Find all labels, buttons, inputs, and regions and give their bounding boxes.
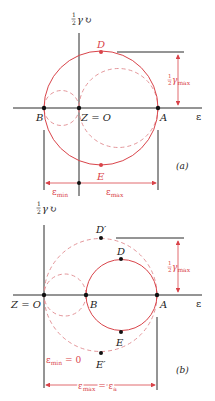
eps-max-label-a: εmax — [106, 187, 124, 198]
label-b-b: B — [89, 299, 97, 310]
label-e-prime-b: E′ — [95, 359, 106, 370]
label-d-prime-b: D′ — [95, 224, 107, 235]
point-o-a — [77, 106, 81, 110]
label-o-b: Z = O — [10, 299, 41, 310]
label-e-a: E — [96, 171, 105, 182]
rotation-arrow-icon-a: ↻ — [84, 15, 92, 25]
half-denominator-a: 2 — [72, 19, 76, 26]
label-d-b: D — [116, 246, 125, 257]
point-b-a — [42, 106, 46, 110]
gamma-axis-label-a: γ — [77, 14, 83, 25]
point-e-a — [99, 163, 103, 167]
gamma-max-half-num-b: 1 — [168, 260, 172, 266]
point-a-a — [156, 106, 160, 110]
caption-a: (a) — [176, 161, 189, 171]
gamma-max-half-den-a: 2 — [168, 80, 172, 86]
epsilon-axis-label-b: ε — [196, 298, 201, 309]
point-o-b — [42, 293, 46, 297]
half-numerator-b: 1 — [37, 200, 41, 207]
point-a-b — [155, 293, 159, 297]
point-d-prime-b — [99, 236, 103, 240]
label-a-a: A — [159, 112, 167, 123]
half-label-a: 1 — [72, 11, 76, 18]
gamma-max-half-den-b: 2 — [168, 267, 172, 273]
point-d-b — [119, 257, 123, 261]
panel-a: 1 2 γ ↻ D E B Z = O A ε 1 2 γmax εmin εm… — [13, 11, 202, 198]
gamma-max-label-a: γmax — [172, 75, 191, 86]
gamma-max-label-b: γmax — [172, 262, 191, 273]
label-e-b: E — [115, 337, 124, 348]
point-b-b — [84, 293, 88, 297]
mohr-circle-diagram: 1 2 γ ↻ D E B Z = O A ε 1 2 γmax εmin εm… — [0, 0, 215, 401]
rotation-arrow-icon-b: ↻ — [49, 204, 57, 214]
point-e-prime-b — [99, 351, 103, 355]
epsilon-axis-label-a: ε — [196, 111, 201, 122]
eps-min-label-b: εmin = 0 — [46, 355, 81, 366]
origin-dot-bottom-a — [77, 181, 81, 185]
half-denominator-b: 2 — [37, 208, 41, 215]
label-o-a: Z = O — [80, 112, 111, 123]
eps-min-label-a: εmin — [52, 187, 68, 198]
panel-b: 1 2 γ ↻ D′ D E E′ Z = O B A ε 1 2 γmax ε… — [10, 200, 202, 392]
label-a-b: A — [159, 299, 167, 310]
eps-max-label-b: εmax = εa — [78, 381, 117, 392]
point-e-b — [119, 330, 123, 334]
label-b-a: B — [35, 112, 43, 123]
caption-b: (b) — [176, 365, 189, 375]
gamma-max-half-num-a: 1 — [168, 73, 172, 79]
gamma-axis-label-b: γ — [42, 203, 48, 214]
point-d-a — [99, 50, 103, 54]
label-d-a: D — [96, 39, 105, 50]
